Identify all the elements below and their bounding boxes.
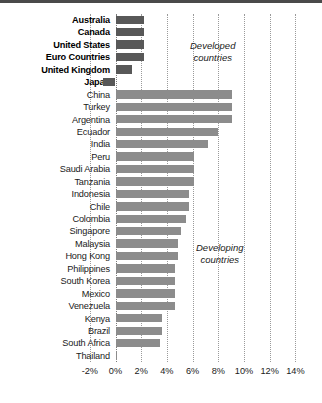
bar-row: Brazil (0, 325, 322, 337)
bar (116, 103, 233, 111)
bar-label: Turkey (6, 101, 110, 113)
bar-label: Philippines (6, 263, 110, 275)
x-tick-label: 4% (160, 366, 173, 376)
bar-row: South Korea (0, 275, 322, 287)
bar-label: Peru (6, 151, 110, 163)
bar-row: Chile (0, 201, 322, 213)
bar-row: Philippines (0, 263, 322, 275)
bar (116, 90, 233, 98)
bar-label: Saudi Arabia (6, 163, 110, 175)
bar-rows: AustraliaCanadaUnited StatesEuro Countri… (0, 14, 322, 362)
bar (116, 140, 209, 148)
bar-row: Venezuela (0, 300, 322, 312)
bar (116, 202, 189, 210)
bar-label: Brazil (6, 325, 110, 337)
annotation-developing-countries: Developing countries (196, 242, 244, 265)
bar (116, 190, 189, 198)
bar (116, 65, 133, 73)
x-axis: -2%0%2%4%6%8%10%12%14% (0, 366, 322, 382)
bar-label: Mexico (6, 288, 110, 300)
bar-row: Malaysia (0, 238, 322, 250)
bar (116, 264, 175, 272)
bar-row: Kenya (0, 313, 322, 325)
bar-row: Indonesia (0, 188, 322, 200)
bar-label: Thailand (6, 350, 110, 362)
plot-area: AustraliaCanadaUnited StatesEuro Countri… (0, 14, 322, 362)
bar (116, 177, 194, 185)
bar-row: China (0, 89, 322, 101)
bar-row: United Kingdom (0, 64, 322, 76)
bar (116, 339, 161, 347)
bar (116, 239, 179, 247)
bar (116, 277, 175, 285)
bar-row: Japan (0, 76, 322, 88)
bar (116, 40, 144, 48)
bar-label: Malaysia (6, 238, 110, 250)
annotation-developed-line1: Developed (190, 40, 235, 51)
bar-label: Colombia (6, 213, 110, 225)
bar-label: Singapore (6, 225, 110, 237)
bar (116, 351, 117, 359)
x-tick-label: -2% (82, 366, 98, 376)
bar-row: United States (0, 39, 322, 51)
bar-label: Australia (6, 14, 110, 26)
bar-row: India (0, 138, 322, 150)
bar-row: Singapore (0, 225, 322, 237)
bar-row: Australia (0, 14, 322, 26)
bar (116, 152, 194, 160)
bar (116, 128, 219, 136)
bar-row: Tanzania (0, 176, 322, 188)
x-tick-label: 2% (135, 366, 148, 376)
bar (116, 53, 144, 61)
annotation-developing-line2: countries (200, 254, 239, 265)
bar-row: Peru (0, 151, 322, 163)
bar (116, 289, 175, 297)
x-tick-label: 10% (235, 366, 253, 376)
bar-row: Colombia (0, 213, 322, 225)
bar (116, 165, 194, 173)
bar-row: Saudi Arabia (0, 163, 322, 175)
x-tick-label: 12% (260, 366, 278, 376)
bar (116, 252, 179, 260)
annotation-developed-line2: countries (193, 52, 232, 63)
x-tick-label: 8% (212, 366, 225, 376)
bar-row: Mexico (0, 288, 322, 300)
bar-chart: AustraliaCanadaUnited StatesEuro Countri… (0, 0, 322, 403)
bar-label: Venezuela (6, 300, 110, 312)
bar-label: China (6, 89, 110, 101)
bar-label: Indonesia (6, 188, 110, 200)
bar-label: United States (6, 39, 110, 51)
bar-row: Ecuador (0, 126, 322, 138)
bar (116, 115, 233, 123)
bar-label: Canada (6, 26, 110, 38)
bar-label: United Kingdom (6, 64, 110, 76)
bar-row: Euro Countries (0, 51, 322, 63)
top-divider-rule (0, 0, 322, 3)
bar (116, 16, 144, 24)
bar-row: Canada (0, 26, 322, 38)
bar-label: Japan (6, 76, 110, 88)
annotation-developing-line1: Developing (196, 242, 244, 253)
bar-row: Hong Kong (0, 250, 322, 262)
bar-row: Turkey (0, 101, 322, 113)
bar-label: Euro Countries (6, 51, 110, 63)
bar-label: Hong Kong (6, 250, 110, 262)
bar-label: South Africa (6, 337, 110, 349)
bar (116, 28, 144, 36)
bar-row: Argentina (0, 114, 322, 126)
bar-row: South Africa (0, 337, 322, 349)
bar (116, 227, 182, 235)
bar-label: Chile (6, 201, 110, 213)
bar-label: Ecuador (6, 126, 110, 138)
bar-label: Tanzania (6, 176, 110, 188)
bar (116, 302, 175, 310)
bar (116, 215, 187, 223)
x-tick-label: 14% (286, 366, 304, 376)
x-tick-label: 0% (109, 366, 122, 376)
x-tick-label: 6% (186, 366, 199, 376)
bar-row: Thailand (0, 350, 322, 362)
bar-label: Argentina (6, 114, 110, 126)
annotation-developed-countries: Developed countries (190, 40, 235, 63)
bar (116, 327, 162, 335)
bar (116, 314, 162, 322)
